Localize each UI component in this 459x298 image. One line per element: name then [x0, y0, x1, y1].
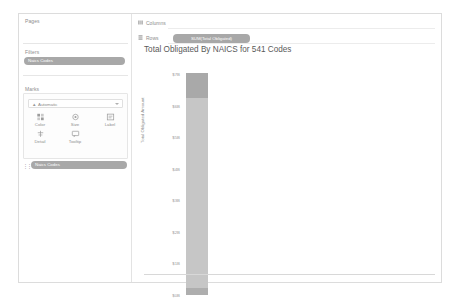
filter-pill-naics-codes[interactable]: Naics Codes [24, 57, 125, 65]
filters-section: Filters Naics Codes [19, 49, 132, 77]
marks-button-detail[interactable]: Detail [25, 130, 55, 144]
y-tick-label: $0B [146, 293, 180, 298]
y-tick-label: $7B [146, 72, 180, 77]
label-icon [106, 113, 115, 121]
y-tick-label: $2B [146, 230, 180, 235]
y-tick-label: $3B [146, 198, 180, 203]
chart-title: Total Obligated By NAICS for 541 Codes [144, 45, 291, 54]
rows-label: Rows [146, 35, 159, 41]
color-icon [36, 113, 45, 121]
axis-baseline [144, 274, 435, 275]
rows-icon [138, 35, 143, 40]
columns-drop-zone[interactable] [168, 18, 435, 29]
columns-shelf: Columns [132, 16, 441, 30]
chevron-down-icon [115, 103, 119, 105]
bar-segment[interactable] [186, 73, 208, 98]
marks-button-tooltip-label: Tooltip [60, 139, 90, 144]
marks-section: Marks ▲ Automatic Color [19, 86, 132, 158]
pages-shelf-well[interactable] [23, 26, 128, 44]
worksheet-view: Columns Rows SUM(Total Obligated) Total … [132, 14, 441, 282]
marks-button-size-label: Size [60, 122, 90, 127]
marks-pill-naics-codes[interactable]: Naics Codes [31, 161, 127, 169]
grip-icon: ⋮⋮ [23, 163, 31, 169]
y-tick-label: $1B [146, 261, 180, 266]
y-tick-label: $6B [146, 104, 180, 109]
columns-label: Columns [146, 20, 166, 26]
size-icon [71, 113, 80, 121]
columns-icon [138, 20, 143, 25]
bar-group[interactable] [186, 58, 208, 282]
marks-label: Marks [25, 86, 39, 92]
marks-button-detail-label: Detail [25, 139, 55, 144]
marks-button-color[interactable]: Color [25, 113, 55, 127]
bar-segment[interactable] [186, 98, 208, 288]
mark-type-icon: ▲ [32, 102, 36, 107]
filters-label: Filters [25, 49, 39, 55]
sidebar: Pages Filters Naics Codes Marks ▲ Automa… [19, 14, 132, 282]
y-tick-label: $4B [146, 167, 180, 172]
detail-icon [36, 130, 45, 138]
y-axis-ticks: $0B$1B$2B$3B$4B$5B$6B$7B [144, 58, 180, 282]
marks-button-label-label: Label [95, 122, 125, 127]
chart-plot-area: Total Obligated Amount $0B$1B$2B$3B$4B$5… [132, 58, 441, 282]
marks-button-color-label: Color [25, 122, 55, 127]
pages-label: Pages [25, 18, 40, 24]
marks-button-size[interactable]: Size [60, 113, 90, 127]
tableau-worksheet: Pages Filters Naics Codes Marks ▲ Automa… [18, 13, 442, 283]
rows-shelf: Rows SUM(Total Obligated) [132, 31, 441, 45]
pages-section: Pages [19, 18, 132, 44]
marks-button-tooltip[interactable]: Tooltip [60, 130, 90, 144]
rows-pill-sum-total-obligated[interactable]: SUM(Total Obligated) [173, 34, 250, 43]
mark-type-value: Automatic [38, 102, 58, 108]
marks-pill-row: ⋮⋮ Naics Codes [23, 161, 128, 170]
y-tick-label: $5B [146, 135, 180, 140]
bar-segment[interactable] [186, 288, 208, 295]
mark-type-select[interactable]: ▲ Automatic [28, 99, 123, 108]
tooltip-icon [71, 130, 80, 138]
marks-button-label[interactable]: Label [95, 113, 125, 127]
